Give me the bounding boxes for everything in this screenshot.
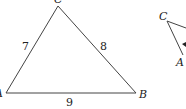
- vertex-label-c-2: C: [159, 11, 167, 22]
- angle-marker-icon: [182, 42, 186, 47]
- vertex-label-a: A: [0, 88, 3, 99]
- side-label-ac: 7: [22, 41, 29, 52]
- side-label-ab: 9: [66, 97, 73, 108]
- vertex-label-a-2: A: [176, 57, 184, 68]
- triangle-2-partial: [167, 21, 186, 55]
- vertex-label-c: C: [54, 0, 62, 5]
- vertex-label-b: B: [139, 89, 147, 100]
- side-label-cb: 8: [100, 41, 107, 52]
